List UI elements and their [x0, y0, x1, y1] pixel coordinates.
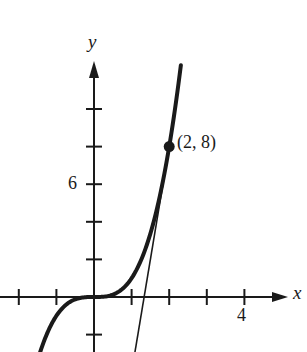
- point-annotation-label: (2, 8): [177, 132, 216, 153]
- y-axis-arrow-icon: [89, 61, 99, 78]
- x-axis-arrow-icon: [272, 292, 288, 302]
- x-axis-label: x: [293, 282, 301, 304]
- y-axis-label: y: [88, 31, 96, 53]
- y-tick-label-6: 6: [68, 173, 77, 194]
- x-tick-label-4: 4: [237, 305, 246, 326]
- tangent-line: [135, 147, 169, 352]
- point-marker: [164, 141, 175, 152]
- chart-figure: y x 4 6 (2, 8): [0, 0, 307, 352]
- plot-area: [0, 0, 307, 352]
- cubic-curve: [40, 65, 181, 352]
